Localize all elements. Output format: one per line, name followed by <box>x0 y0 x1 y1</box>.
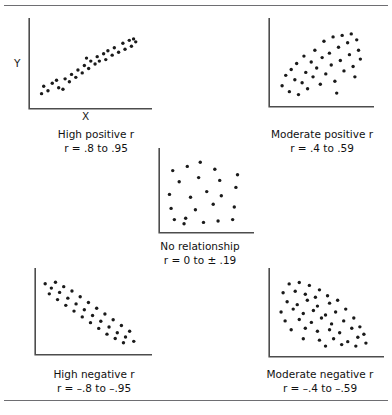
caption-value-moderate-negative: r = –.4 to –.59 <box>248 382 392 396</box>
figure-frame: Y X High positive r r = .8 to .95 Modera… <box>0 0 392 415</box>
y-axis-label: Y <box>14 58 20 69</box>
caption-value-high-negative: r = –.8 to –.95 <box>4 382 184 396</box>
caption-no-relationship: No relationship r = 0 to ± .19 <box>132 240 268 267</box>
caption-value-no-relationship: r = 0 to ± .19 <box>132 254 268 268</box>
plot-area-moderate-negative <box>268 268 384 358</box>
caption-title-moderate-negative: Moderate negative r <box>248 368 392 382</box>
caption-moderate-positive: Moderate positive r r = .4 to .59 <box>252 128 392 155</box>
bottom-rule <box>4 400 388 401</box>
plot-area-high-positive <box>28 18 152 110</box>
x-axis-label: X <box>82 111 89 122</box>
caption-title-moderate-positive: Moderate positive r <box>252 128 392 142</box>
plot-area-no-relationship <box>158 148 254 234</box>
plot-area-moderate-positive <box>268 18 374 108</box>
caption-value-moderate-positive: r = .4 to .59 <box>252 142 392 156</box>
top-rule <box>4 5 388 6</box>
caption-title-high-negative: High negative r <box>4 368 184 382</box>
caption-title-high-positive: High positive r <box>6 128 186 142</box>
caption-high-negative: High negative r r = –.8 to –.95 <box>4 368 184 395</box>
caption-moderate-negative: Moderate negative r r = –.4 to –.59 <box>248 368 392 395</box>
caption-title-no-relationship: No relationship <box>132 240 268 254</box>
plot-area-high-negative <box>34 268 152 356</box>
